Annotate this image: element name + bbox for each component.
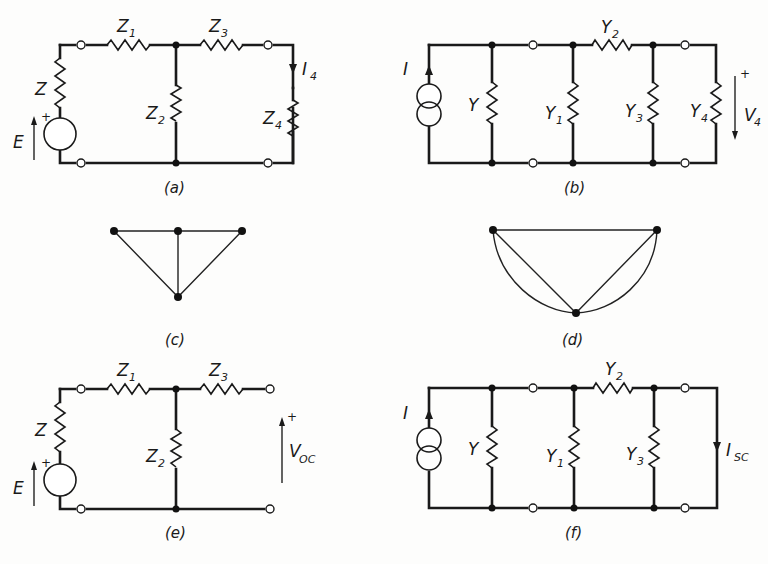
z-resistor-icon <box>55 58 65 108</box>
y2-resistor-icon <box>592 40 632 50</box>
y1-resistor-icon <box>569 426 579 468</box>
y-resistor-icon <box>487 82 497 124</box>
arrowhead-icon <box>31 116 37 125</box>
label-z1-sub: 1 <box>129 371 136 384</box>
label-isc-sub: SC <box>734 451 749 464</box>
polarity-plus: + <box>287 410 297 424</box>
label-z2: Z <box>145 446 158 466</box>
label-e: E <box>13 132 24 152</box>
label-z3-sub: 3 <box>221 371 228 384</box>
node-dot <box>571 505 578 512</box>
label-i: I <box>403 59 408 79</box>
terminal-icon <box>266 385 274 393</box>
terminal-icon <box>681 384 689 392</box>
label-y1-sub: 1 <box>556 114 563 127</box>
label-i4-sub: 4 <box>310 70 317 83</box>
panel-f-circuit: I Y Y 1 Y 2 Y 3 I SC (f) <box>403 359 749 542</box>
label-voc-sub: OC <box>299 453 316 466</box>
label-z3: Z <box>208 16 221 36</box>
circuit-figure: E + Z Z 1 Z 2 Z 3 Z 4 I 4 (a) <box>0 0 768 564</box>
graph-edges <box>114 231 242 297</box>
caption-e: (e) <box>165 524 186 542</box>
node-dot <box>173 160 180 167</box>
label-y2-sub: 2 <box>616 370 623 383</box>
i4-arrow-icon <box>289 64 297 74</box>
terminal-icon <box>77 159 85 167</box>
node-dot <box>570 42 577 49</box>
label-v4-sub: 4 <box>754 116 761 129</box>
label-y1-sub: 1 <box>557 457 564 470</box>
polarity-plus: + <box>41 456 51 470</box>
node-dot <box>489 42 496 49</box>
graph-node <box>653 226 661 234</box>
terminal-icon <box>529 504 537 512</box>
label-z3: Z <box>208 360 221 380</box>
terminal-icon <box>264 41 272 49</box>
node-dot <box>651 385 658 392</box>
arrowhead-icon <box>732 131 738 140</box>
node-dot <box>173 506 180 513</box>
panel-a-circuit: E + Z Z 1 Z 2 Z 3 Z 4 I 4 (a) <box>13 16 317 197</box>
graph-node <box>572 309 580 317</box>
label-z1: Z <box>116 16 129 36</box>
current-arrow-icon <box>425 65 433 75</box>
polarity-plus: + <box>740 67 750 81</box>
label-isc: I <box>726 440 731 460</box>
z3-resistor-icon <box>200 384 243 394</box>
y-resistor-icon <box>487 426 497 468</box>
terminal-icon <box>529 159 537 167</box>
label-e: E <box>13 478 24 498</box>
node-dot <box>650 160 657 167</box>
graph-node <box>238 227 246 235</box>
arrowhead-icon <box>279 417 285 426</box>
label-z4: Z <box>262 108 275 128</box>
node-dot <box>489 505 496 512</box>
terminal-icon <box>77 505 85 513</box>
bottom-wire <box>60 494 264 509</box>
label-i: I <box>403 403 408 423</box>
label-z1-sub: 1 <box>129 27 136 40</box>
label-y4-sub: 4 <box>701 112 708 125</box>
graph-node <box>489 226 497 234</box>
panel-b-circuit: + V 4 I Y Y 1 Y 2 Y 3 Y 4 (b) <box>403 17 761 197</box>
label-y3-sub: 3 <box>636 112 643 125</box>
y4-resistor-icon <box>711 82 721 124</box>
terminal-icon <box>681 504 689 512</box>
y2-resistor-icon <box>593 383 633 393</box>
terminal-icon <box>681 41 689 49</box>
y3-resistor-icon <box>649 426 659 468</box>
caption-f: (f) <box>565 524 582 542</box>
label-z: Z <box>34 420 47 440</box>
graph-node <box>174 227 182 235</box>
graph-edges <box>493 230 657 313</box>
label-z2: Z <box>145 103 158 123</box>
node-dot <box>173 386 180 393</box>
terminal-icon <box>529 384 537 392</box>
node-dot <box>489 160 496 167</box>
caption-a: (a) <box>164 179 185 197</box>
label-y3-sub: 3 <box>637 455 644 468</box>
z-resistor-icon <box>55 402 65 452</box>
graph-node <box>110 227 118 235</box>
z2-resistor-icon <box>171 85 181 121</box>
current-arrow-icon <box>425 409 433 419</box>
label-z4-sub: 4 <box>275 119 282 132</box>
current-source-ring-icon <box>417 446 441 470</box>
z4-resistor-icon <box>288 100 298 136</box>
isc-arrow-icon <box>713 442 721 452</box>
label-z2-sub: 2 <box>158 114 165 127</box>
node-dot <box>571 385 578 392</box>
caption-c: (c) <box>165 331 185 349</box>
label-y: Y <box>468 95 480 115</box>
z1-resistor-icon <box>107 384 150 394</box>
z2-resistor-icon <box>171 429 181 467</box>
y1-resistor-icon <box>568 82 578 124</box>
caption-b: (b) <box>564 179 585 197</box>
node-dot <box>173 42 180 49</box>
label-z3-sub: 3 <box>221 27 228 40</box>
polarity-plus: + <box>41 110 51 124</box>
terminal-icon <box>77 41 85 49</box>
label-z: Z <box>34 79 47 99</box>
node-dot <box>651 505 658 512</box>
terminal-icon <box>77 385 85 393</box>
